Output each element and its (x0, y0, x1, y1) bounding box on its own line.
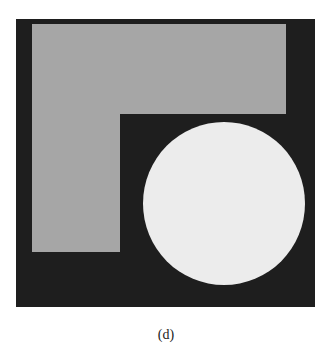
white-circle (143, 122, 305, 285)
figure-caption: (d) (0, 327, 332, 343)
gray-l-shape-top-bar (32, 24, 286, 114)
figure-panel: (d) (0, 0, 332, 348)
gray-l-shape-left-bar (32, 113, 120, 252)
